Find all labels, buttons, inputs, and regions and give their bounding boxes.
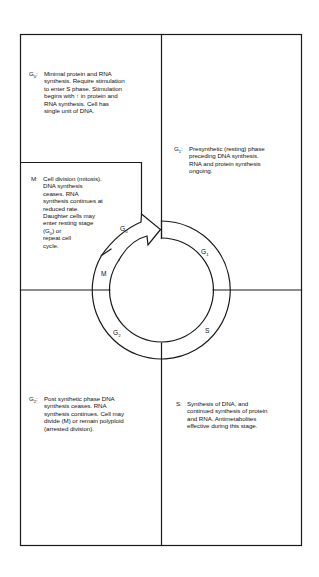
panel-g2-phase: G2: <box>29 395 38 402</box>
text-line: effective during this stage. <box>187 422 267 429</box>
panel-g0: G0: Minimal protein and RNA synthesis. R… <box>29 70 125 114</box>
panel-s-colon: : <box>180 400 182 407</box>
panel-g2-colon: : <box>36 395 38 402</box>
text-line: Presynthetic (resting) phase <box>189 145 265 152</box>
ring-label-s: S <box>205 327 209 334</box>
text-line: continued synthesis of protein <box>187 407 267 414</box>
text-line: synthesis continues. Cell may <box>44 410 124 417</box>
text-line: repeat cell <box>43 234 103 241</box>
text-line: begins with ↑ in protein and <box>44 92 125 99</box>
text-line: RNA and protein synthesis <box>189 160 265 167</box>
text-line: divide (M) or remain polyploid <box>44 417 124 424</box>
panel-s: S: Synthesis of DNA, and continued synth… <box>176 400 267 430</box>
text-line: cycle. <box>43 242 103 249</box>
text-line: (arrested division). <box>44 425 124 432</box>
text-line: DNA synthesis <box>43 182 103 189</box>
panel-m-colon: : <box>36 175 38 182</box>
text-line: Cell division (mitosis). <box>43 175 103 182</box>
text-line: (G0) or <box>43 227 103 234</box>
text-line: synthesis. Require stimulation <box>44 77 125 84</box>
ring-label-g0-sub: 0 <box>125 229 127 234</box>
panel-g0-text: Minimal protein and RNA synthesis. Requi… <box>44 70 125 114</box>
ring-label-g1-sub: 1 <box>206 252 208 257</box>
ring-inner <box>109 238 213 342</box>
text-line: RNA synthesis. Cell has <box>44 100 125 107</box>
text-line: and RNA. Antimetabolites <box>187 415 267 422</box>
panel-g2: G2: Post synthetic phase DNA synthesis c… <box>29 395 124 432</box>
ring-label-s-letter: S <box>205 327 209 334</box>
text-line: to enter S phase. Stimulation <box>44 85 125 92</box>
g0-arrow <box>102 214 161 260</box>
panel-s-phase: S: <box>176 400 182 407</box>
ring-label-g2: G2 <box>113 329 121 336</box>
text-fragment: (G <box>43 227 50 234</box>
text-line: reduced rate. <box>43 205 103 212</box>
panel-g1-text: Presynthetic (resting) phase preceding D… <box>189 145 265 175</box>
panel-s-text: Synthesis of DNA, and continued synthesi… <box>187 400 267 430</box>
text-line: ceases. RNA <box>43 190 103 197</box>
ring-label-m: M <box>101 270 107 277</box>
text-line: enter resting stage <box>43 219 103 226</box>
text-line: Synthesis of DNA, and <box>187 400 267 407</box>
text-line: Post synthetic phase DNA <box>44 395 124 402</box>
text-line: single unit of DNA. <box>44 107 125 114</box>
ring-label-g0: G0 <box>120 225 128 232</box>
panel-g0-phase: G0: <box>29 70 38 77</box>
ring-label-g1: G1 <box>201 248 209 255</box>
panel-m: M: Cell division (mitosis). DNA synthesi… <box>31 175 103 249</box>
panel-g2-text: Post synthetic phase DNA synthesis cease… <box>44 395 124 432</box>
panel-g1-colon: : <box>181 145 183 152</box>
text-line: Minimal protein and RNA <box>44 70 125 77</box>
ring-label-g2-sub: 2 <box>118 333 120 338</box>
text-line: ongoing. <box>189 167 265 174</box>
panel-m-phase: M: <box>31 175 38 182</box>
panel-g1: G1: Presynthetic (resting) phase precedi… <box>174 145 265 175</box>
panel-g0-colon: : <box>36 70 38 77</box>
text-line: preceding DNA synthesis. <box>189 152 265 159</box>
text-line: synthesis continues at <box>43 197 103 204</box>
ring-label-m-letter: M <box>101 270 107 277</box>
panel-m-text: Cell division (mitosis). DNA synthesis c… <box>43 175 103 249</box>
text-fragment: ) or <box>52 227 61 234</box>
text-line: Daughter cells may <box>43 212 103 219</box>
text-line: synthesis ceases. RNA <box>44 402 124 409</box>
panel-g1-phase: G1: <box>174 145 183 152</box>
